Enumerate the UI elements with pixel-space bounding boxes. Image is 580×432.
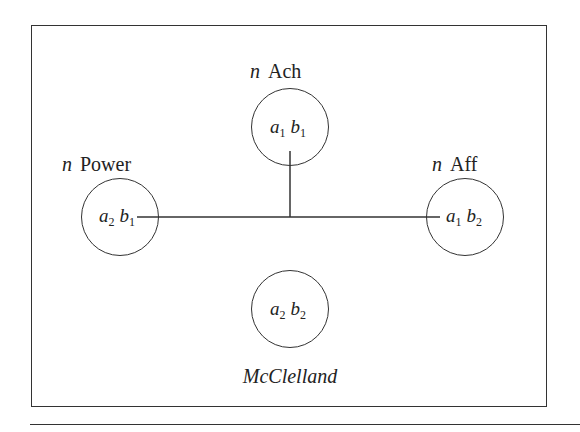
cell-a1b1: a1b1: [270, 117, 311, 139]
label-prefix: n: [62, 153, 72, 175]
label-text: Power: [80, 153, 131, 175]
cell-a2b2: a2b2: [270, 299, 311, 321]
label-power: nPower: [62, 154, 131, 174]
label-prefix: n: [250, 60, 260, 82]
label-aff: nAff: [432, 154, 477, 174]
label-text: Aff: [450, 153, 477, 175]
cell-a2b1: a2b1: [99, 206, 137, 228]
label-ach: nAch: [250, 61, 301, 81]
diagram-caption: McClelland: [0, 365, 580, 388]
label-prefix: n: [432, 153, 442, 175]
cell-a1b2: a1b2: [444, 206, 482, 228]
label-text: Ach: [268, 60, 301, 82]
